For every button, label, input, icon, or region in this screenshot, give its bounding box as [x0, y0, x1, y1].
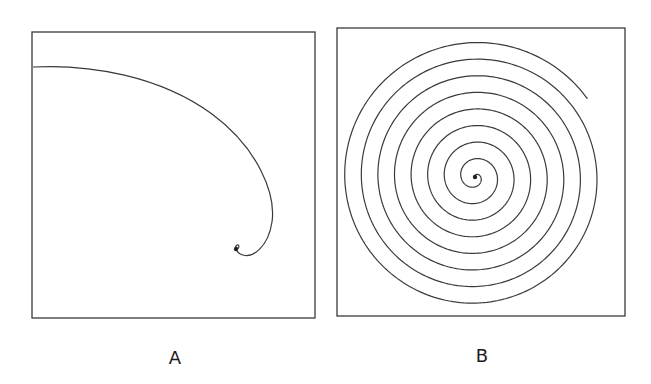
panel-a-label: A	[169, 347, 181, 368]
panel-a	[32, 32, 315, 318]
panel-a-frame	[32, 32, 315, 318]
panel-b	[337, 28, 625, 316]
panel-a-spiral-curve	[33, 67, 273, 256]
panel-b-spiral-curve	[345, 43, 597, 304]
panel-b-frame	[337, 28, 625, 316]
panel-b-center-dot	[473, 175, 477, 179]
panel-b-label: B	[476, 345, 488, 366]
figure-canvas	[0, 0, 651, 384]
panel-a-center-dot	[234, 247, 238, 251]
